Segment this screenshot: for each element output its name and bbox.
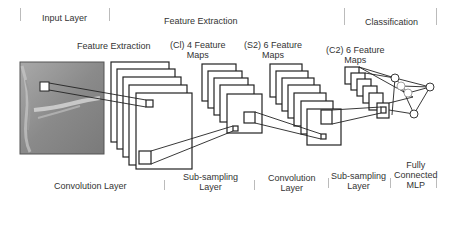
footer-separator (436, 178, 437, 188)
footer-convolution-layer: Convolution Layer (54, 181, 127, 191)
s2-feature-maps (202, 64, 262, 133)
footer-separator (328, 178, 329, 188)
footer-convolution-layer-2: Convolution Layer (268, 173, 316, 193)
c1-feature-maps (111, 62, 192, 169)
footer-separator (254, 180, 255, 190)
footer-separator (164, 180, 165, 190)
footer-fully-connected-mlp: Fully Connected MLP (394, 160, 438, 190)
input-image (20, 62, 104, 154)
footer-separator (390, 178, 391, 188)
footer-subsampling-layer-1: Sub-sampling Layer (183, 172, 238, 192)
c2-maps (345, 67, 389, 118)
footer-subsampling-layer-2: Sub-sampling Layer (331, 171, 386, 191)
c2-feature-maps (270, 64, 341, 145)
